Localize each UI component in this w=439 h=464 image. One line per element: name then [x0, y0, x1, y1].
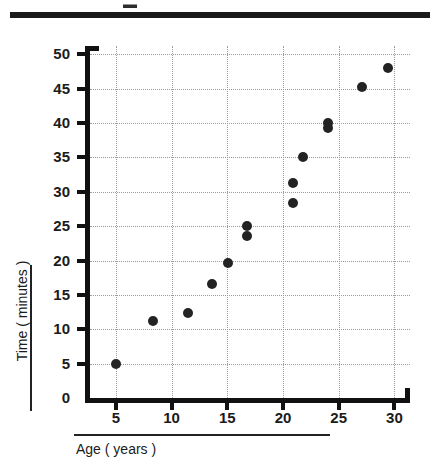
data-point	[207, 279, 217, 289]
y-axis-title-container: Time ( minutes )	[12, 241, 34, 381]
x-axis-title: Age ( years )	[76, 441, 156, 457]
gridline-horizontal	[90, 261, 410, 262]
gridline-horizontal	[90, 123, 410, 124]
x-tick-label: 30	[374, 411, 414, 425]
data-point	[357, 82, 367, 92]
data-point	[288, 198, 298, 208]
gridline-vertical	[172, 46, 173, 398]
y-tick-label: 50	[40, 47, 70, 61]
y-tick-mark	[77, 87, 90, 91]
y-tick-label: 35	[40, 150, 70, 164]
y-axis-title: Time ( minutes )	[12, 241, 32, 381]
figure-canvas: 05101520253035404550 51015202530 Age ( y…	[0, 0, 439, 464]
y-tick-mark	[77, 259, 90, 263]
y-tick-label: 25	[40, 219, 70, 233]
data-point	[148, 316, 158, 326]
y-tick-mark	[77, 121, 90, 125]
x-tick-label: 5	[96, 411, 136, 425]
data-point	[242, 221, 252, 231]
x-tick-label: 20	[263, 411, 303, 425]
x-tick-label: 25	[319, 411, 359, 425]
gridline-vertical	[394, 46, 395, 398]
gridline-vertical	[116, 46, 117, 398]
gridline-horizontal	[90, 295, 410, 296]
y-tick-mark	[77, 155, 90, 159]
y-tick-label: 20	[40, 254, 70, 268]
gridline-horizontal	[90, 54, 410, 55]
data-point	[223, 258, 233, 268]
gridline-horizontal	[90, 157, 410, 158]
gridline-horizontal	[90, 364, 410, 365]
y-tick-label: 0	[40, 391, 70, 405]
gridline-vertical	[339, 46, 340, 398]
y-tick-mark	[77, 224, 90, 228]
gridline-horizontal	[90, 329, 410, 330]
data-point	[383, 63, 393, 73]
scatter-plot: 05101520253035404550 51015202530 Age ( y…	[0, 0, 439, 464]
y-tick-label: 40	[40, 116, 70, 130]
x-title-rule	[74, 434, 330, 436]
y-tick-mark	[77, 293, 90, 297]
x-tick-label: 10	[152, 411, 192, 425]
gridline-vertical	[283, 46, 284, 398]
y-tick-label: 45	[40, 82, 70, 96]
y-tick-mark	[77, 362, 90, 366]
y-tick-mark	[77, 190, 90, 194]
y-tick-label: 10	[40, 322, 70, 336]
gridline-vertical	[227, 46, 228, 398]
y-tick-label: 5	[40, 357, 70, 371]
x-axis-line	[85, 398, 410, 403]
y-tick-label: 30	[40, 185, 70, 199]
y-tick-mark	[77, 52, 90, 56]
data-point	[298, 152, 308, 162]
y-axis-top-cap	[85, 46, 99, 51]
y-tick-label: 15	[40, 288, 70, 302]
data-point	[111, 359, 121, 369]
x-axis-end-cap	[405, 388, 410, 403]
data-point	[183, 308, 193, 318]
y-tick-mark	[77, 327, 90, 331]
x-tick-label: 15	[207, 411, 247, 425]
data-point	[323, 118, 333, 128]
data-point	[288, 178, 298, 188]
data-point	[242, 231, 252, 241]
gridline-horizontal	[90, 192, 410, 193]
